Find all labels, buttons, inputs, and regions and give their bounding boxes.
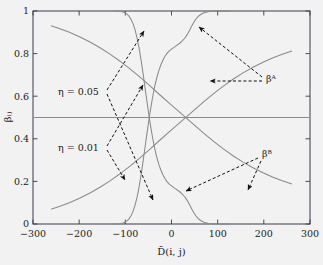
y-axis-label-text: βᵢⱼ (2, 111, 13, 122)
x-axis-label-text: D̄(i, j) (157, 246, 186, 257)
x-tick-label: 100 (209, 228, 227, 239)
x-tick-label: −100 (112, 228, 138, 239)
annotation-beta-b: βᴮ (262, 148, 272, 159)
y-tick-label: 1 (23, 5, 29, 16)
x-axis-label: D̄(i, j) (157, 246, 186, 257)
figure-background (0, 0, 323, 265)
x-tick-label: 0 (168, 228, 174, 239)
y-axis-label: βᵢⱼ (2, 111, 13, 122)
y-tick-label: 0.4 (14, 133, 29, 144)
x-tick-label: 200 (255, 228, 273, 239)
y-tick-label: 0.8 (14, 48, 29, 59)
annotation-eta-001: η = 0.01 (58, 142, 99, 153)
annotation-beta-a: βᴬ (266, 73, 276, 84)
x-tick-label: −200 (66, 228, 92, 239)
y-tick-label: 0.2 (14, 176, 29, 187)
y-tick-label: 0 (23, 218, 29, 229)
x-tick-label: 300 (301, 228, 319, 239)
chart-figure: −300 −200 −100 0 100 200 300 0 0.2 0.4 0… (0, 0, 323, 265)
annotation-eta-005: η = 0.05 (58, 86, 99, 97)
x-tick-label: −300 (20, 228, 46, 239)
y-tick-label: 0.6 (14, 91, 29, 102)
